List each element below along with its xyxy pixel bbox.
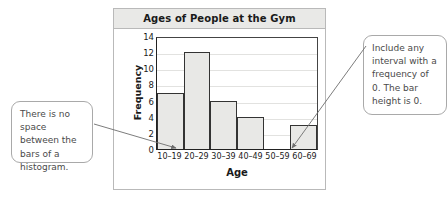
chart-title-band: Ages of People at the Gym [114, 9, 325, 29]
callout-right: Include any interval with a frequency of… [363, 35, 447, 115]
x-tick-10-19: 10–19 [156, 152, 183, 161]
x-tick-30-39: 30–39 [210, 152, 237, 161]
x-tick-60-69: 60–69 [291, 152, 318, 161]
y-tick-2: 2 [136, 130, 154, 139]
y-tick-4: 4 [136, 114, 154, 123]
bar-20-29 [184, 52, 211, 149]
plot-wrapper: Frequency 14 12 10 8 6 4 2 0 [114, 29, 327, 190]
y-tick-10: 10 [136, 65, 154, 74]
chart-panel: Ages of People at the Gym Frequency 14 1… [113, 8, 326, 190]
bar-slot-50-59 [264, 38, 291, 149]
x-tick-40-49: 40–49 [237, 152, 264, 161]
bar-10-19 [157, 93, 184, 150]
callout-left-text: There is no space between the bars of a … [20, 109, 77, 172]
chart-title: Ages of People at the Gym [143, 13, 295, 24]
bar-60-69 [290, 125, 317, 149]
bar-40-49 [237, 117, 264, 149]
y-tick-8: 8 [136, 81, 154, 90]
x-axis-tick-labels: 10–19 20–29 30–39 40–49 50–59 60–69 [156, 152, 318, 161]
bar-slot-40-49 [237, 38, 264, 149]
bar-slot-20-29 [184, 38, 211, 149]
plot-area [156, 37, 318, 150]
bar-slot-30-39 [210, 38, 237, 149]
x-tick-50-59: 50–59 [264, 152, 291, 161]
x-axis-title: Age [156, 167, 318, 178]
y-tick-0: 0 [136, 146, 154, 155]
bar-slot-60-69 [290, 38, 317, 149]
y-axis-tick-labels: 14 12 10 8 6 4 2 0 [134, 37, 154, 150]
y-tick-6: 6 [136, 98, 154, 107]
y-tick-14: 14 [136, 33, 154, 42]
histogram-bars [157, 38, 317, 149]
callout-right-text: Include any interval with a frequency of… [372, 43, 437, 106]
bar-slot-10-19 [157, 38, 184, 149]
x-tick-20-29: 20–29 [183, 152, 210, 161]
callout-left: There is no space between the bars of a … [11, 101, 93, 163]
bar-30-39 [210, 101, 237, 149]
y-tick-12: 12 [136, 49, 154, 58]
